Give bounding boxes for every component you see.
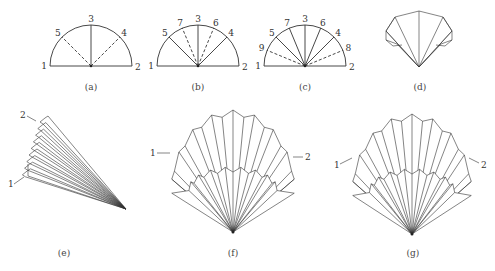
panel-e-stacked-pleats	[22, 116, 126, 209]
fan-apex	[411, 233, 414, 236]
point-label-9: 9	[259, 43, 265, 53]
pleat-edge	[36, 144, 126, 209]
caption-g: (g)	[407, 248, 420, 258]
caption-e: (e)	[58, 248, 70, 258]
fold-line-7	[182, 28, 198, 66]
semicircle-panels: 123541235476123547698	[41, 14, 354, 72]
caption-c: (c)	[299, 82, 311, 92]
fold-line-4	[305, 37, 334, 66]
point-label-6: 6	[320, 18, 326, 28]
pleat-edge	[32, 157, 126, 209]
panel-f-open-fan	[172, 110, 294, 234]
panel-b-semicircle: 1235476	[148, 14, 247, 72]
marker-e-2: 2	[20, 110, 26, 120]
point-label-5: 5	[162, 28, 168, 38]
fold-line-5	[62, 37, 91, 66]
caption-d: (d)	[414, 82, 427, 92]
fan-folding-diagram: 123541235476123547698 (a) (b) (c) (d) (e…	[0, 0, 495, 271]
point-label-4: 4	[228, 28, 234, 38]
marker-g-2: 2	[481, 160, 487, 170]
point-label-2: 2	[349, 62, 355, 72]
point-label-5: 5	[55, 28, 61, 38]
fold-line-7	[289, 28, 305, 66]
panel-d-folded-cone	[386, 11, 452, 67]
caption-a: (a)	[85, 82, 97, 92]
point-label-3: 3	[195, 14, 201, 24]
point-label-1: 1	[41, 61, 47, 71]
point-label-4: 4	[335, 28, 341, 38]
center-point	[304, 65, 307, 68]
pleat-edge	[39, 137, 126, 209]
fold-line-6	[305, 28, 321, 66]
marker-e-1: 1	[8, 179, 14, 189]
fold-line-6	[198, 28, 214, 66]
point-label-3: 3	[302, 14, 308, 24]
point-label-7: 7	[284, 18, 290, 28]
point-label-2: 2	[242, 62, 248, 72]
pleat-edge	[30, 164, 126, 209]
point-label-5: 5	[269, 28, 275, 38]
marker-f-1: 1	[150, 148, 156, 158]
pleat-edge	[41, 131, 126, 209]
caption-f: (f)	[228, 248, 238, 258]
point-label-7: 7	[177, 18, 183, 28]
panel-c-semicircle: 123547698	[255, 14, 354, 72]
point-label-6: 6	[213, 18, 219, 28]
marker-g-1: 1	[334, 160, 340, 170]
center-point	[90, 65, 93, 68]
fan-apex	[232, 231, 235, 234]
point-label-2: 2	[135, 62, 141, 72]
point-label-8: 8	[346, 43, 352, 53]
caption-b: (b)	[192, 82, 205, 92]
fold-line-5	[169, 37, 198, 66]
fold-line-4	[91, 37, 120, 66]
center-point	[197, 65, 200, 68]
panel-a-semicircle: 12354	[41, 14, 140, 72]
fold-line-5	[276, 37, 305, 66]
fold-line-4	[198, 37, 227, 66]
arrow-e-1	[14, 177, 24, 184]
point-label-4: 4	[121, 28, 127, 38]
marker-f-2: 2	[305, 152, 311, 162]
pleat-edge	[43, 124, 126, 209]
panel-g-open-fan	[353, 114, 472, 236]
point-label-3: 3	[88, 14, 94, 24]
arrow-g-1	[340, 158, 352, 164]
point-label-1: 1	[255, 61, 261, 71]
point-label-1: 1	[148, 61, 154, 71]
arrow-g-2	[469, 158, 479, 163]
arrow-e-2	[27, 116, 36, 121]
